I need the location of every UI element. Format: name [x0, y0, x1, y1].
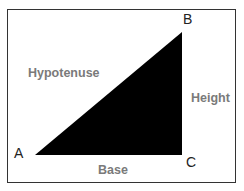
vertex-label-b: B	[183, 13, 192, 26]
triangle-shape	[35, 32, 182, 155]
vertex-label-a: A	[14, 147, 23, 160]
side-label-hypotenuse: Hypotenuse	[28, 67, 100, 80]
side-label-height: Height	[191, 92, 230, 105]
side-label-base: Base	[98, 164, 128, 177]
vertex-label-c: C	[186, 156, 196, 169]
